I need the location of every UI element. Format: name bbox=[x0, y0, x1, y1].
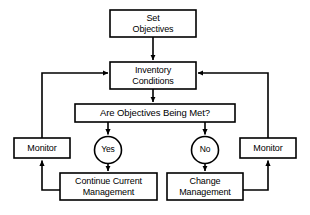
node-no-shape bbox=[192, 137, 219, 164]
edge-change-to-monitor-right bbox=[243, 161, 268, 191]
flowchart-connectors bbox=[0, 0, 310, 215]
node-set-objectives-shape bbox=[110, 10, 196, 37]
node-monitor-right-shape bbox=[240, 138, 296, 158]
edge-monitor-right-to-inventory bbox=[198, 73, 268, 138]
flowchart-canvas: Set Objectives Inventory Conditions Are … bbox=[0, 0, 310, 215]
node-inventory-conditions-shape bbox=[110, 62, 196, 89]
node-yes-shape bbox=[95, 137, 122, 164]
node-monitor-left-shape bbox=[14, 138, 70, 158]
node-continue-current-management-shape bbox=[60, 173, 157, 200]
node-change-management-shape bbox=[167, 173, 243, 200]
node-are-objectives-being-met-shape bbox=[75, 104, 235, 122]
edge-continue-to-monitor-left bbox=[42, 161, 60, 191]
